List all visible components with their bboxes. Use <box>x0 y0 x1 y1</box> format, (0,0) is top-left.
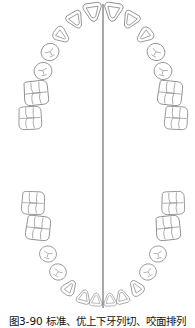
lower-second-molar-left <box>21 191 45 215</box>
upper-canine-right <box>134 25 156 47</box>
lower-canine-right <box>126 277 146 298</box>
lower-first-premolar-right <box>137 261 160 283</box>
lower-first-molar-left <box>25 215 51 241</box>
upper-first-premolar-right <box>144 40 168 64</box>
lower-second-premolar-right <box>148 244 169 264</box>
lower-lateral-incisor-left <box>75 288 92 305</box>
upper-canine-left <box>50 25 72 47</box>
lower-second-molar-right <box>161 191 185 215</box>
upper-first-premolar-left <box>38 40 62 64</box>
upper-second-premolar-right <box>152 60 174 81</box>
dental-arch-diagram <box>0 0 195 328</box>
lower-central-incisor-left <box>89 293 103 307</box>
upper-central-incisor-right <box>103 2 124 23</box>
upper-second-premolar-left <box>32 60 54 81</box>
upper-second-molar-left <box>18 106 42 130</box>
upper-lateral-incisor-left <box>64 9 87 32</box>
upper-first-molar-right <box>157 80 183 106</box>
lower-second-premolar-left <box>38 244 59 264</box>
upper-first-molar-left <box>23 80 49 106</box>
lower-central-incisor-right <box>103 293 117 307</box>
lower-first-premolar-left <box>47 261 70 283</box>
figure-caption: 图3-90 标准、优上下牙列切、咬面排列 <box>0 311 195 328</box>
upper-second-molar-right <box>164 106 188 130</box>
upper-central-incisor-left <box>82 2 103 23</box>
upper-lateral-incisor-right <box>119 9 142 32</box>
lower-first-molar-right <box>155 215 181 241</box>
figure-caption-text: 图3-90 标准、优上下牙列切、咬面排列 <box>9 315 186 327</box>
lower-lateral-incisor-right <box>114 288 131 305</box>
lower-canine-left <box>59 277 79 298</box>
